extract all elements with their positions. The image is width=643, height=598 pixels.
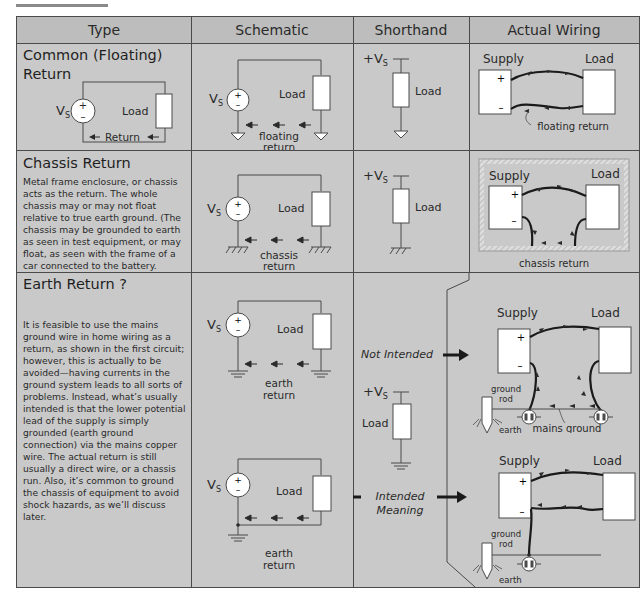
svg-text:–: – bbox=[518, 360, 523, 371]
row2-description: Metal frame enclosure, or chassis acts a… bbox=[23, 176, 188, 272]
svg-text:–: – bbox=[236, 209, 241, 219]
svg-text:earth: earth bbox=[499, 575, 522, 585]
svg-text:+: + bbox=[234, 199, 242, 209]
svg-text:Load: Load bbox=[362, 417, 388, 430]
svg-text:+: + bbox=[517, 332, 525, 343]
svg-text:Supply: Supply bbox=[483, 52, 524, 66]
svg-text:Load: Load bbox=[585, 52, 614, 66]
svg-text:+VS: +VS bbox=[363, 384, 388, 401]
svg-text:rod: rod bbox=[499, 394, 513, 404]
svg-text:Supply: Supply bbox=[489, 169, 530, 183]
svg-text:Supply: Supply bbox=[497, 306, 538, 320]
row2-shorthand: +VS Load bbox=[353, 151, 469, 272]
svg-text:VS: VS bbox=[209, 91, 223, 108]
svg-text:earth: earth bbox=[499, 425, 522, 433]
svg-text:mains ground: mains ground bbox=[533, 423, 602, 433]
intended-meaning-label-line1: Intended bbox=[365, 490, 435, 504]
svg-text:+: + bbox=[234, 475, 242, 485]
row3-schematic-intended: + – VS Load earth return bbox=[191, 433, 353, 588]
svg-text:Load: Load bbox=[279, 88, 305, 101]
svg-text:–: – bbox=[236, 100, 241, 110]
section-rule bbox=[16, 4, 108, 7]
row1-schematic: + – VS Load floating return bbox=[191, 45, 353, 150]
svg-text:earth: earth bbox=[265, 377, 293, 389]
svg-text:Load: Load bbox=[415, 201, 441, 214]
row1-title-line1: Common (Floating) bbox=[23, 46, 162, 65]
svg-text:return: return bbox=[263, 260, 295, 272]
svg-text:+: + bbox=[234, 315, 242, 325]
svg-text:ground: ground bbox=[491, 529, 521, 539]
svg-text:Supply: Supply bbox=[499, 454, 540, 468]
svg-text:Load: Load bbox=[593, 454, 622, 468]
svg-text:+: + bbox=[519, 476, 527, 487]
svg-text:ground: ground bbox=[491, 384, 521, 394]
svg-text:Load: Load bbox=[278, 202, 304, 215]
svg-text:–: – bbox=[236, 485, 241, 495]
intended-meaning-label-line2: Meaning bbox=[365, 504, 435, 518]
svg-text:VS: VS bbox=[56, 103, 70, 120]
svg-text:+: + bbox=[79, 100, 87, 111]
header-shorthand: Shorthand bbox=[353, 17, 469, 44]
svg-text:–: – bbox=[499, 102, 504, 113]
row1-actual-wiring: Supply Load + – floating return bbox=[469, 45, 639, 150]
return-types-table: Type Schematic Shorthand Actual Wiring C… bbox=[16, 16, 640, 588]
svg-text:–: – bbox=[236, 325, 241, 335]
svg-text:–: – bbox=[520, 506, 525, 517]
svg-text:floating return: floating return bbox=[537, 121, 609, 132]
row3-wiring-not-intended: Supply Load + – ground rod earth mains bbox=[469, 273, 639, 433]
row3-description: It is feasible to use the mains ground w… bbox=[23, 319, 188, 523]
svg-text:Load: Load bbox=[591, 167, 620, 181]
row2-actual-wiring: Supply Load + – chassis return bbox=[469, 151, 639, 272]
row1-type-diagram: + – VS Load Return bbox=[17, 77, 191, 149]
svg-text:VS: VS bbox=[207, 477, 221, 494]
header-schematic: Schematic bbox=[191, 17, 353, 44]
row3-shorthand: +VS Load bbox=[353, 273, 469, 588]
svg-text:+: + bbox=[497, 73, 505, 84]
svg-text:Load: Load bbox=[122, 105, 148, 118]
row1-shorthand: +VS Load bbox=[353, 45, 469, 150]
svg-text:VS: VS bbox=[207, 317, 221, 334]
svg-text:chassis return: chassis return bbox=[519, 258, 589, 269]
svg-text:return: return bbox=[263, 141, 295, 150]
svg-text:+: + bbox=[234, 90, 242, 100]
svg-text:–: – bbox=[81, 111, 86, 122]
svg-text:+: + bbox=[511, 189, 519, 200]
svg-text:return: return bbox=[263, 559, 295, 571]
svg-text:+VS: +VS bbox=[363, 51, 388, 68]
row2-title: Chassis Return bbox=[23, 154, 131, 173]
svg-text:Load: Load bbox=[277, 323, 303, 336]
row2-schematic: + – VS Load chassis return bbox=[191, 151, 353, 272]
header-actual-wiring: Actual Wiring bbox=[469, 17, 639, 44]
svg-text:earth: earth bbox=[265, 547, 293, 559]
row3-schematic-not-intended: + – VS Load earth return bbox=[191, 273, 353, 433]
row3-wiring-intended: Supply Load + – ground rod earth bbox=[469, 433, 639, 588]
header-type: Type bbox=[17, 17, 191, 44]
svg-text:Load: Load bbox=[276, 485, 302, 498]
svg-text:+VS: +VS bbox=[363, 168, 388, 185]
svg-text:rod: rod bbox=[499, 539, 513, 549]
row3-title: Earth Return ? bbox=[23, 275, 127, 294]
svg-text:Return: Return bbox=[105, 131, 140, 143]
svg-text:Load: Load bbox=[415, 85, 441, 98]
svg-text:VS: VS bbox=[207, 201, 221, 218]
svg-text:return: return bbox=[263, 389, 295, 401]
svg-text:Load: Load bbox=[591, 306, 620, 320]
svg-text:–: – bbox=[512, 215, 517, 226]
